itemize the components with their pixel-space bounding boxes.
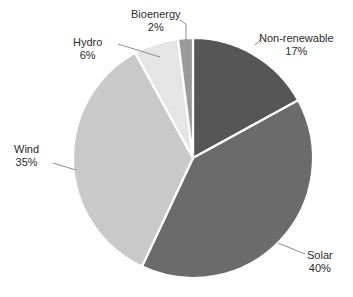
pie-label-bioenergy-name: Bioenergy: [131, 8, 181, 21]
pie-label-non-renewable: Non-renewable 17%: [259, 32, 334, 58]
pie-label-non-renewable-name: Non-renewable: [259, 32, 334, 45]
pie-label-hydro: Hydro 6%: [73, 36, 102, 62]
pie-label-wind: Wind 35%: [14, 143, 39, 169]
pie-label-bioenergy: Bioenergy 2%: [131, 8, 181, 34]
pie-label-non-renewable-percent: 17%: [259, 45, 334, 58]
pie-label-solar-name: Solar: [307, 249, 333, 262]
pie-label-hydro-name: Hydro: [73, 36, 102, 49]
pie-chart: Non-renewable 17% Solar 40% Wind 35% Hyd…: [0, 0, 353, 297]
pie-slices: [73, 38, 313, 278]
pie-label-solar: Solar 40%: [307, 249, 333, 275]
leader-line-solar: [278, 243, 305, 254]
pie-label-hydro-percent: 6%: [73, 49, 102, 62]
pie-label-solar-percent: 40%: [307, 262, 333, 275]
pie-label-wind-percent: 35%: [14, 156, 39, 169]
leader-line-bioenergy: [180, 20, 186, 40]
pie-label-bioenergy-percent: 2%: [131, 21, 181, 34]
pie-label-wind-name: Wind: [14, 143, 39, 156]
